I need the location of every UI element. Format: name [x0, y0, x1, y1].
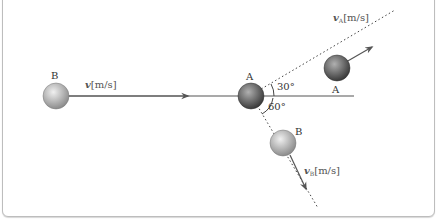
angle-30-label: 30° — [277, 81, 295, 92]
velocity-a-arrow — [346, 47, 372, 62]
angle-60-label: 60° — [268, 101, 286, 112]
ball-b-after-label: B — [295, 126, 302, 137]
ball-a-collision-label: A — [245, 71, 254, 82]
ball-a-after — [324, 55, 350, 81]
velocity-vb-label: vB[m/s] — [304, 165, 340, 177]
collision-diagram: B A A B v[m/s] vA[m/s] vB[m/s] 30° 60° — [0, 0, 437, 221]
ball-b-after — [270, 130, 296, 156]
ball-a-path-dotted — [251, 10, 395, 95]
velocity-v-label: v[m/s] — [85, 79, 117, 90]
angle-arc-30 — [271, 84, 274, 96]
ball-b-initial-label: B — [51, 70, 58, 81]
ball-a-at-collision — [238, 83, 264, 109]
ball-a-after-label: A — [331, 84, 340, 95]
velocity-va-label: vA[m/s] — [333, 12, 369, 24]
ball-b-initial — [43, 83, 69, 109]
